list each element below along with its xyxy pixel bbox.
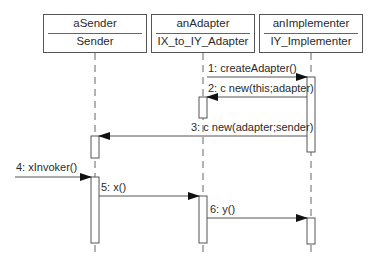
object-anadapter: anAdapter IX_to_IY_Adapter [151, 14, 255, 53]
object-name: aSender [44, 17, 146, 29]
object-animplementer: anImplementer IY_Implementer [259, 14, 363, 53]
object-class: IX_to_IY_Adapter [152, 35, 254, 47]
object-name: anAdapter [152, 17, 254, 29]
object-class: Sender [44, 35, 146, 47]
activation-asender-2 [91, 177, 99, 243]
message-label-5: 5: x() [101, 181, 126, 193]
message-label-4: 4: xInvoker() [16, 161, 77, 173]
message-label-6: 6: y() [210, 203, 235, 215]
object-class: IY_Implementer [260, 35, 362, 47]
object-divider [264, 33, 358, 34]
object-divider [48, 33, 142, 34]
activation-anadapter-2 [199, 196, 207, 243]
object-asender: aSender Sender [43, 14, 147, 53]
sequence-diagram: aSender Sender anAdapter IX_to_IY_Adapte… [0, 0, 373, 268]
activation-anadapter-1 [199, 97, 207, 118]
activation-asender-1 [91, 136, 99, 158]
message-label-3: 3: c new(adapter;sender) [191, 121, 313, 133]
message-label-1: 1: createAdapter() [208, 62, 297, 74]
activation-animplementer-2 [307, 218, 315, 244]
object-name: anImplementer [260, 17, 362, 29]
message-label-2: 2: c new(this;adapter) [208, 82, 314, 94]
object-divider [156, 33, 250, 34]
